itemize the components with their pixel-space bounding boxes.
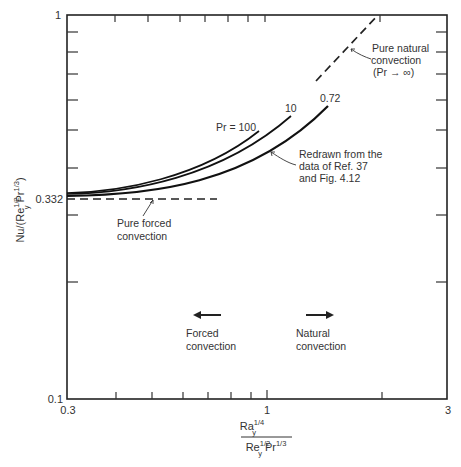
natural-pointer [351,49,371,59]
forced-dir-label-1: Forced [186,327,219,339]
natural-dir-label-2: convection [296,340,346,352]
forced-label-1: Pure forced [117,217,171,229]
bottom-ticks [116,390,382,399]
y-tick-0332: 0.332 [35,193,63,205]
y-tick-1: 1 [55,9,61,21]
natural-asymptote [316,15,378,81]
label-pr-072: 0.72 [320,92,341,104]
top-ticks [115,15,380,22]
label-pr-10: 10 [285,102,297,114]
curve-pr-10 [67,116,291,194]
forced-direction-arrow-icon [193,311,221,319]
x-tick-3: 3 [445,404,451,416]
natural-label-2: convection [371,54,421,66]
natural-label-3: (Pr → ∞) [373,66,414,78]
curve-pr-072 [67,106,328,196]
chart: 1 0.332 0.1 0.3 1 3 Nu/(Re1/2y Pr1/3) Ra… [0,0,461,467]
natural-label-1: Pure natural [372,42,429,54]
natural-direction-arrow-icon [306,311,334,319]
redrawn-label-2: data of Ref. 37 [299,160,368,172]
curve-pr-100 [67,131,259,193]
x-axis-label: Ra1/4y Re1/2yPr1/3 [240,418,292,458]
forced-dir-label-2: convection [186,340,236,352]
natural-dir-label-1: Natural [296,327,330,339]
svg-text:Re1/2yPr1/3: Re1/2yPr1/3 [246,439,287,458]
forced-pointer [143,200,153,216]
redrawn-label-1: Redrawn from the [299,148,383,160]
forced-label-2: convection [117,230,167,242]
redrawn-pointer [271,152,296,165]
svg-text:Ra1/4y: Ra1/4y [240,418,265,437]
y-axis-label: Nu/(Re1/2y Pr1/3) [12,177,31,242]
left-ticks [67,32,78,282]
label-pr-100: Pr = 100 [216,121,256,133]
x-tick-03: 0.3 [60,404,75,416]
x-tick-1: 1 [264,404,270,416]
svg-text:Nu/(Re1/2y Pr1/3): Nu/(Re1/2y Pr1/3) [12,177,31,242]
redrawn-label-3: and Fig. 4.12 [299,172,360,184]
right-ticks [436,32,447,282]
